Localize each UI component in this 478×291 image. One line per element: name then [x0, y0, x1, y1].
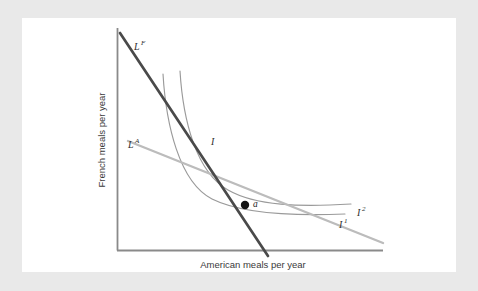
- label-point-a: a: [253, 199, 258, 209]
- label-i2-base: I: [356, 207, 361, 218]
- label-la-base: L: [127, 139, 134, 150]
- label-i-mid-base: I: [210, 136, 215, 147]
- y-axis-title: French meals per year: [96, 92, 107, 187]
- figure-outer-frame: L F L A I I 1 I 2 a American meals per y…: [0, 0, 478, 291]
- indifference-curve-i2: [180, 71, 351, 205]
- budget-line-la: [128, 141, 383, 243]
- label-lf-base: L: [133, 41, 140, 52]
- indifference-curve-chart: L F L A I I 1 I 2 a American meals per y…: [0, 0, 478, 291]
- label-i1-base: I: [338, 219, 343, 230]
- indifference-curve-i1: [163, 74, 345, 215]
- label-lf-sup: F: [140, 39, 146, 47]
- point-a-marker: [241, 201, 249, 209]
- label-i2-sup: 2: [362, 205, 366, 213]
- label-i1-sup: 1: [344, 217, 348, 225]
- budget-line-lf: [120, 33, 268, 256]
- x-axis-title: American meals per year: [200, 259, 306, 270]
- label-la-sup: A: [134, 137, 140, 145]
